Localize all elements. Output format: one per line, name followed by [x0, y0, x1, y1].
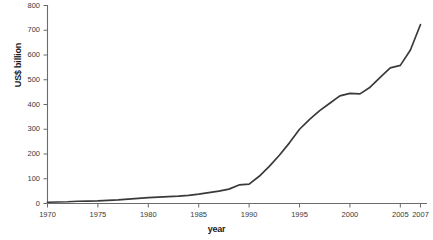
y-axis-tick-value: 700 [14, 26, 40, 34]
y-axis-tick-label: 600 [12, 51, 40, 59]
x-axis-tick-value: 1970 [28, 210, 68, 219]
y-axis-tick-label: 700 [12, 26, 40, 34]
x-axis-tick-value: 2007 [401, 210, 433, 219]
x-axis-tick-value: 1985 [179, 210, 219, 219]
y-axis-tick-label: 400 [12, 101, 40, 109]
y-axis-tick-label: 500 [12, 76, 40, 84]
chart-container: US$ billion year 01002003004005006007008… [0, 0, 433, 240]
y-axis-tick-value: 600 [14, 51, 40, 59]
y-axis-tick-label: 300 [12, 125, 40, 133]
y-axis-tick-value: 0 [14, 200, 40, 208]
y-axis-tick-value: 200 [14, 150, 40, 158]
x-axis-ticks [48, 204, 421, 208]
y-axis-tick-label: 200 [12, 150, 40, 158]
y-axis-tick-value: 500 [14, 76, 40, 84]
y-axis-tick-value: 400 [14, 101, 40, 109]
data-series-line [48, 25, 421, 203]
y-axis-tick-value: 800 [14, 2, 40, 10]
plot-area [0, 0, 433, 240]
y-axis-tick-value: 100 [14, 175, 40, 183]
y-axis-tick-label: 800 [12, 2, 40, 10]
x-axis-tick-value: 1995 [280, 210, 320, 219]
x-axis-label: year [0, 224, 433, 234]
x-axis-tick-value: 1980 [128, 210, 168, 219]
y-axis-tick-label: 100 [12, 175, 40, 183]
y-axis-tick-value: 300 [14, 125, 40, 133]
y-axis-tick-label: 0 [12, 200, 40, 208]
axes-group [44, 5, 428, 208]
x-axis-tick-value: 1990 [229, 210, 269, 219]
x-axis-tick-value: 1975 [78, 210, 118, 219]
x-axis-tick-value: 2000 [330, 210, 370, 219]
y-axis-ticks [44, 6, 48, 204]
